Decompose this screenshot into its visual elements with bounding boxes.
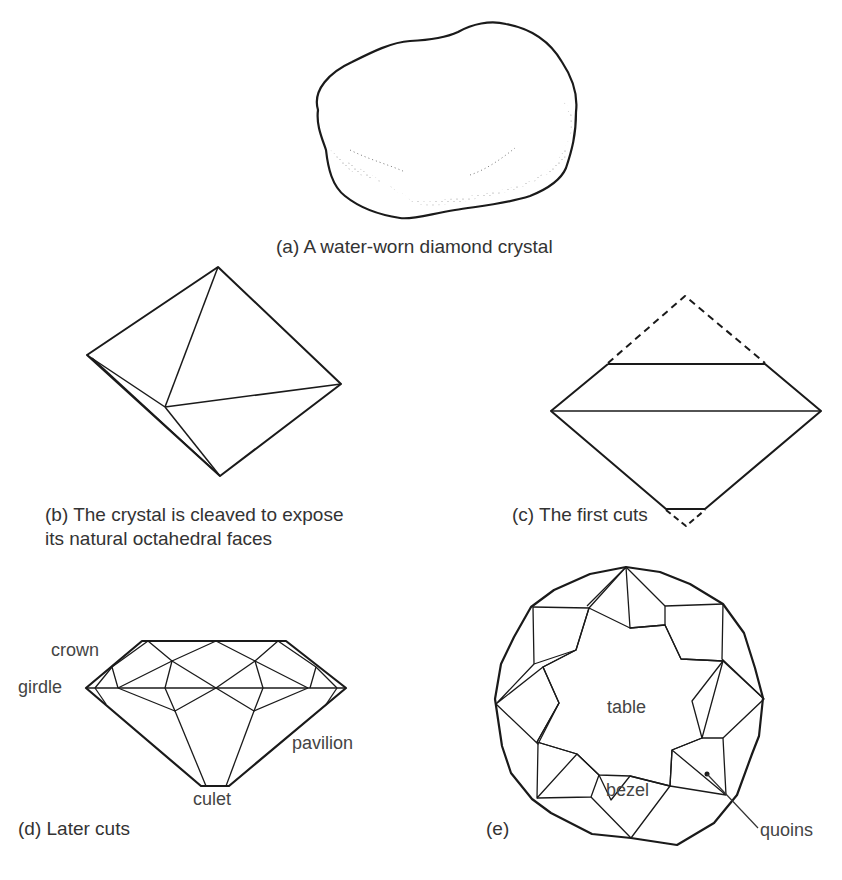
water-worn-crystal-drawing xyxy=(317,22,577,218)
label-quoins: quoins xyxy=(760,820,813,841)
label-culet: culet xyxy=(193,789,231,810)
caption-c: (c) The first cuts xyxy=(512,503,648,527)
caption-b-line1: (b) The crystal is cleaved to expose xyxy=(45,503,344,527)
label-girdle: girdle xyxy=(18,677,62,698)
octahedron-drawing xyxy=(87,267,341,476)
later-cuts-drawing xyxy=(86,641,346,786)
caption-b-line2: its natural octahedral faces xyxy=(45,527,272,551)
first-cuts-drawing xyxy=(551,296,821,526)
label-crown: crown xyxy=(51,640,99,661)
label-pavilion: pavilion xyxy=(292,733,353,754)
label-bezel: bezel xyxy=(606,780,649,801)
diamond-cutting-diagram xyxy=(0,0,842,880)
caption-d: (d) Later cuts xyxy=(18,817,130,841)
caption-a: (a) A water-worn diamond crystal xyxy=(276,235,553,259)
label-table: table xyxy=(607,697,646,718)
caption-e: (e) xyxy=(486,817,509,841)
